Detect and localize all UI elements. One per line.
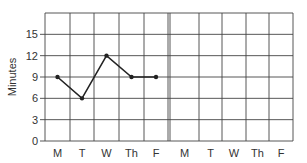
- y-tick-label: 9: [32, 71, 38, 83]
- x-tick-label: F: [278, 147, 285, 159]
- y-tick-label: 15: [26, 28, 38, 40]
- x-tick-label: F: [153, 147, 160, 159]
- data-point: [129, 75, 133, 79]
- x-tick-label: M: [180, 147, 189, 159]
- x-tick-label: W: [229, 147, 240, 159]
- y-axis-title: Minutes: [6, 57, 18, 96]
- x-tick-label: Th: [125, 147, 138, 159]
- grid-lines: [45, 13, 293, 141]
- data-point: [55, 75, 59, 79]
- data-point: [80, 96, 84, 100]
- y-axis: 03691215: [26, 28, 45, 147]
- y-tick-label: 6: [32, 92, 38, 104]
- data-point: [104, 53, 108, 57]
- y-tick-label: 12: [26, 50, 38, 62]
- x-axis: MTWThFMTWThF: [53, 147, 285, 159]
- y-tick-label: 3: [32, 114, 38, 126]
- x-tick-label: T: [207, 147, 214, 159]
- y-tick-label: 0: [32, 135, 38, 147]
- x-tick-label: M: [53, 147, 62, 159]
- x-tick-label: Th: [251, 147, 264, 159]
- x-tick-label: W: [101, 147, 112, 159]
- data-point: [154, 75, 158, 79]
- x-tick-label: T: [79, 147, 86, 159]
- line-chart: 03691215 MTWThFMTWThF Minutes: [0, 0, 307, 163]
